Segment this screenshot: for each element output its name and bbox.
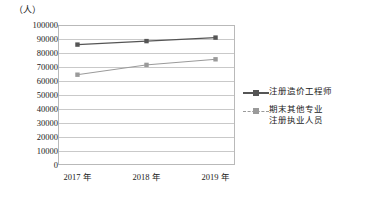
y-axis-tick-label: 10000 xyxy=(8,147,58,155)
y-axis-tick-label: 100000 xyxy=(8,21,58,29)
x-axis-tick-label: 2018 年 xyxy=(117,170,177,182)
chart-legend: 注册造价工程师期末其他专业注册执业人员 xyxy=(243,86,383,132)
legend-item[interactable]: 注册造价工程师 xyxy=(243,86,383,98)
x-axis-tick-label: 2017 年 xyxy=(47,170,107,182)
data-point-marker xyxy=(144,39,148,43)
y-axis-tick-label: 0 xyxy=(8,161,58,169)
legend-marker-icon xyxy=(243,106,269,116)
y-axis-tick-label: 20000 xyxy=(8,133,58,141)
legend-marker-icon xyxy=(243,88,269,98)
y-axis-tick-label: 40000 xyxy=(8,105,58,113)
legend-item[interactable]: 期末其他专业注册执业人员 xyxy=(243,104,383,126)
y-axis-tick-label: 60000 xyxy=(8,77,58,85)
y-axis-tick-label: 50000 xyxy=(8,91,58,99)
y-axis-tick-label: 70000 xyxy=(8,63,58,71)
y-axis-tick-label: 30000 xyxy=(8,119,58,127)
y-axis-tick-label: 90000 xyxy=(8,35,58,43)
x-axis-tick-label: 2019 年 xyxy=(186,170,246,182)
legend-label: 注册造价工程师 xyxy=(269,86,332,97)
series-plot-layer xyxy=(58,25,235,165)
data-point-marker xyxy=(75,42,79,46)
data-point-marker xyxy=(144,63,148,67)
y-axis-unit-label: （人） xyxy=(14,3,41,16)
legend-label: 期末其他专业注册执业人员 xyxy=(269,104,323,126)
y-axis-tick-label: 80000 xyxy=(8,49,58,57)
line-chart: （人） 100000900008000070000600005000040000… xyxy=(0,0,384,198)
data-point-marker xyxy=(75,73,79,77)
data-point-marker xyxy=(213,35,217,39)
data-point-marker xyxy=(213,57,217,61)
